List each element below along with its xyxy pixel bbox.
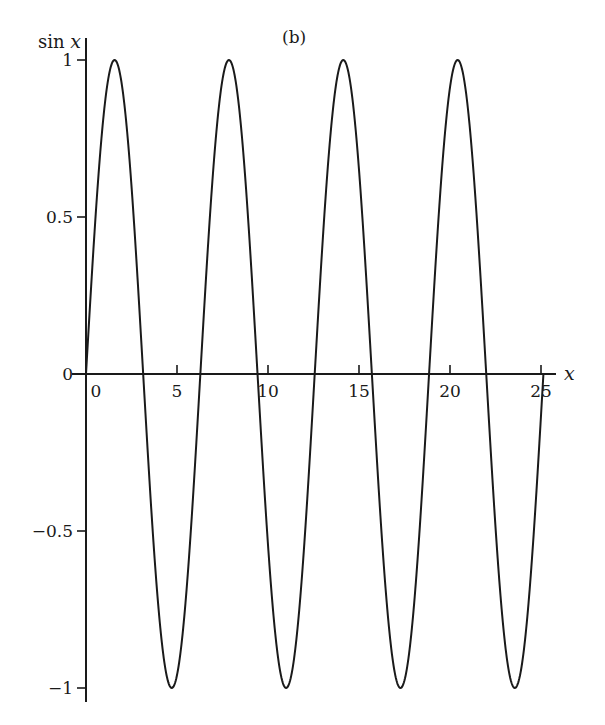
y-axis-label-prefix: sin	[38, 31, 70, 52]
x-tick-label: 25	[530, 381, 552, 401]
x-tick-label: 5	[172, 381, 183, 401]
x-axis-ticks: 0510152025	[91, 365, 552, 401]
y-tick-label: 0	[62, 364, 73, 384]
y-tick-label: −1	[48, 678, 73, 698]
y-axis-ticks: 10.50−0.5−1	[32, 50, 86, 698]
y-tick-label: 1	[62, 50, 73, 70]
y-tick-label: 0.5	[46, 207, 73, 227]
x-tick-label: 10	[257, 381, 279, 401]
y-axis-label-var: x	[70, 30, 81, 52]
x-axis-label: x	[564, 362, 575, 384]
y-tick-label: −0.5	[32, 521, 73, 541]
x-tick-label: 15	[348, 381, 370, 401]
y-axis-label: sin x	[38, 30, 81, 52]
sine-chart: 0510152025 10.50−0.5−1 (b) sin x x	[0, 0, 605, 725]
panel-label: (b)	[282, 27, 306, 47]
x-tick-label: 0	[91, 381, 102, 401]
x-tick-label: 20	[439, 381, 461, 401]
